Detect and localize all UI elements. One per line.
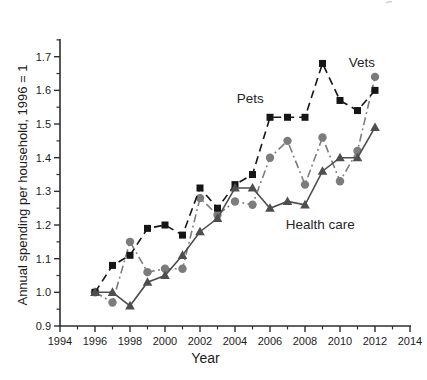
marker-circle-vets (371, 73, 379, 81)
marker-square-pets (127, 252, 134, 259)
marker-square-pets (319, 60, 326, 67)
y-tick-label: 1.1 (36, 253, 51, 265)
y-tick-label: 1.0 (36, 286, 51, 298)
marker-square-pets (302, 114, 309, 121)
x-axis-title: Year (0, 350, 411, 366)
marker-circle-vets (231, 197, 239, 205)
y-tick-label: 0.9 (36, 320, 51, 332)
y-tick-label: 1.3 (36, 185, 51, 197)
series-label-pets: Pets (237, 91, 264, 106)
marker-square-pets (267, 114, 274, 121)
marker-square-pets (372, 87, 379, 94)
x-tick-label: 2002 (188, 335, 212, 347)
y-tick-label: 1.5 (36, 118, 51, 130)
y-tick-label: 1.4 (36, 152, 51, 164)
marker-circle-vets (336, 177, 344, 185)
crop-artifact-mark (386, 2, 392, 3)
x-tick-label: 2000 (153, 335, 177, 347)
x-tick-label: 2014 (398, 335, 422, 347)
x-tick-label: 1994 (48, 335, 72, 347)
x-tick-label: 2004 (223, 335, 247, 347)
marker-square-pets (214, 205, 221, 212)
y-tick-label: 1.2 (36, 219, 51, 231)
marker-square-pets (109, 262, 116, 269)
x-tick-label: 2012 (363, 335, 387, 347)
marker-square-pets (162, 222, 169, 229)
marker-circle-vets (266, 153, 274, 161)
marker-circle-vets (301, 180, 309, 188)
line-chart-canvas: 1994199619982000200220042006200820102012… (0, 0, 427, 380)
marker-circle-vets (143, 268, 151, 276)
series-label-vets: Vets (349, 55, 376, 70)
marker-circle-vets (318, 133, 326, 141)
marker-circle-vets (248, 201, 256, 209)
marker-circle-vets (126, 238, 134, 246)
marker-square-pets (197, 184, 204, 191)
marker-square-pets (337, 97, 344, 104)
y-tick-label: 1.7 (36, 51, 51, 63)
y-tick-label: 1.6 (36, 84, 51, 96)
x-tick-label: 1998 (118, 335, 142, 347)
chart-figure: 1994199619982000200220042006200820102012… (0, 0, 427, 380)
marker-circle-vets (178, 265, 186, 273)
y-axis-title: Annual spending per household, 1996 = 1 (15, 60, 31, 310)
x-tick-label: 2008 (293, 335, 317, 347)
marker-square-pets (354, 107, 361, 114)
marker-square-pets (284, 114, 291, 121)
marker-triangle-health-care (195, 227, 205, 236)
marker-triangle-health-care (318, 166, 328, 175)
series-label-health-care: Health care (286, 217, 355, 232)
x-tick-label: 2010 (328, 335, 352, 347)
x-tick-label: 1996 (83, 335, 107, 347)
marker-circle-vets (283, 137, 291, 145)
marker-circle-vets (108, 298, 116, 306)
marker-square-pets (249, 171, 256, 178)
marker-square-pets (144, 225, 151, 232)
marker-square-pets (179, 232, 186, 239)
marker-triangle-health-care (283, 196, 293, 205)
marker-triangle-health-care (370, 122, 380, 131)
x-tick-label: 2006 (258, 335, 282, 347)
chart-line-pets (95, 63, 375, 292)
